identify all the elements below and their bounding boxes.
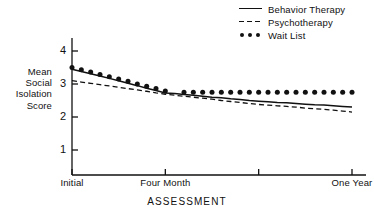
data-point [79,67,84,72]
series-behavior-therapy [72,69,352,107]
data-point [191,90,196,95]
y-axis-title-line-2: Social [2,77,52,88]
x-tick-label: Four Month [140,177,190,188]
chart-figure: Mean Social Isolation Score 1234 Initial… [0,0,374,212]
data-point [303,90,308,95]
data-point [107,74,112,79]
data-point [312,90,317,95]
x-axis-title: ASSESSMENT [0,196,374,207]
data-point [88,70,93,75]
legend-item-wait-list[interactable]: Wait List [238,29,374,41]
y-tick-label: 3 [50,77,66,89]
data-point [340,90,345,95]
data-point [200,90,205,95]
dots-icon [238,29,264,41]
data-point [294,90,299,95]
data-point [256,90,261,95]
data-point [266,90,271,95]
data-point [219,90,224,95]
y-axis-title: Mean Social Isolation Score [2,66,52,111]
data-point [126,79,131,84]
data-point [247,90,252,95]
data-point [228,90,233,95]
y-axis-title-line-4: Score [2,100,52,111]
legend-item-behavior-therapy[interactable]: Behavior Therapy [238,3,374,15]
legend-label-behavior-therapy: Behavior Therapy [268,4,345,15]
data-series-layer [70,65,355,112]
legend-label-psychotherapy: Psychotherapy [268,17,333,28]
y-tick-label: 1 [50,143,66,155]
data-point [70,65,75,70]
data-point [135,82,140,87]
data-point [238,90,243,95]
solid-line-icon [238,3,264,15]
data-point [144,84,149,89]
x-tick-label: Initial [60,177,83,188]
data-point [210,90,215,95]
y-tick-label: 4 [50,44,66,56]
data-point [182,90,187,95]
data-point [322,90,327,95]
data-point [116,77,121,82]
data-point [284,90,289,95]
data-point [163,88,168,93]
data-point [331,90,336,95]
data-point [350,90,355,95]
y-tick-label: 2 [50,110,66,122]
chart-legend: Behavior Therapy Psychotherapy Wait List [238,3,374,42]
data-point [154,86,159,91]
dashed-line-icon [238,16,264,28]
legend-item-psychotherapy[interactable]: Psychotherapy [238,16,374,28]
y-axis-title-line-1: Mean [2,66,52,77]
x-tick-label: One Year [332,177,373,188]
x-axis-ticks [72,169,352,175]
data-point [275,90,280,95]
y-axis-title-line-3: Isolation [2,88,52,99]
data-point [98,72,103,77]
axis-lines [72,38,366,175]
legend-label-wait-list: Wait List [268,30,305,41]
series-psychotherapy [72,81,352,112]
